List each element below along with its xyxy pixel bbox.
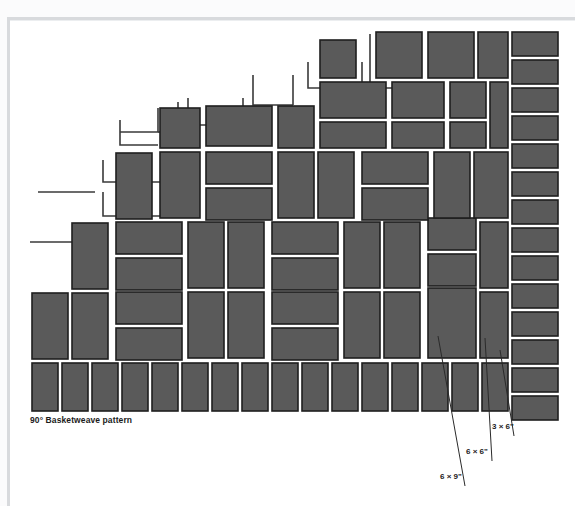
border-column-right bbox=[512, 32, 558, 420]
field-band-2 bbox=[72, 218, 508, 290]
callout-label-6x6: 6 × 6" bbox=[466, 447, 488, 456]
callout-label-6x9: 6 × 9" bbox=[440, 472, 462, 481]
field-band-1 bbox=[32, 288, 508, 360]
field-band-4 bbox=[160, 82, 508, 148]
basketweave-svg: .t { fill:#5a5a5a; stroke:#1f1f1f; strok… bbox=[10, 20, 575, 506]
border-row-bottom bbox=[32, 363, 508, 411]
diagram-caption: 90° Basketweave pattern bbox=[30, 415, 132, 425]
page-left-margin bbox=[0, 0, 7, 506]
field-band-3 bbox=[116, 152, 508, 220]
callout-label-3x6: 3 × 6" bbox=[492, 422, 514, 431]
basketweave-diagram: .t { fill:#5a5a5a; stroke:#1f1f1f; strok… bbox=[10, 20, 575, 506]
tile-field bbox=[32, 32, 558, 420]
page-top-margin bbox=[0, 0, 575, 17]
page-canvas: .t { fill:#5a5a5a; stroke:#1f1f1f; strok… bbox=[0, 0, 575, 506]
field-band-5 bbox=[320, 32, 508, 78]
